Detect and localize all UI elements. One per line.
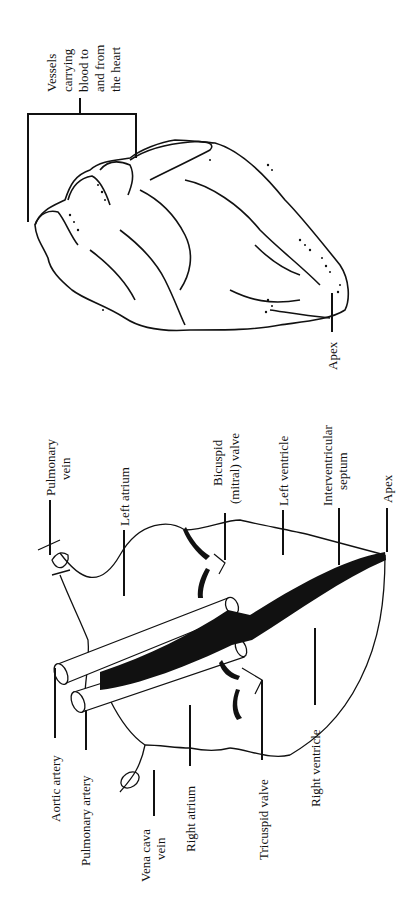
interventricular-septum-shape [100,552,386,690]
label-interventricular-septum: Interventricular septum [320,422,350,506]
label-pulmonary-vein: Pulmonary vein [43,436,73,496]
label-left-ventricle: Left ventricle [276,435,291,506]
label-vena-cava-vein: Vena cava vein [138,826,168,882]
heart-diagram-figure: Vessels carrying blood to and from the h… [0,0,399,912]
label-tricuspid-valve: Tricuspid valve [256,779,271,860]
label-bicuspid-valve: Bicuspid (mitral) valve [210,433,242,504]
label-apex-top: Apex [325,341,340,370]
label-right-ventricle: Right ventricle [308,729,323,807]
label-pulmonary-artery: Pulmonary artery [78,775,93,866]
label-apex-bottom: Apex [380,474,395,503]
stipple-shading [69,159,341,313]
label-aortic-artery: Aortic artery [48,755,63,822]
label-left-atrium: Left atrium [117,467,132,526]
label-vessels: Vessels carrying blood to and from the h… [44,41,123,92]
label-right-atrium: Right atrium [183,786,198,852]
external-heart-drawing [35,140,348,331]
